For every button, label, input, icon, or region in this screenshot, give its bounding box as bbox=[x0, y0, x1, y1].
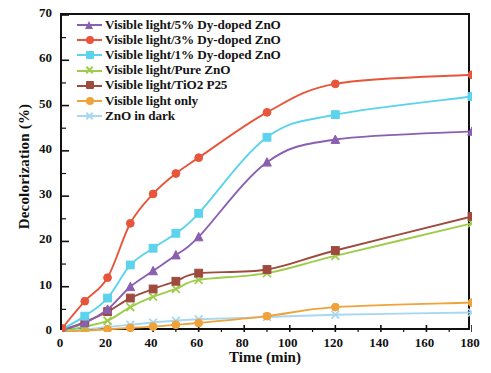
y-tick-label: 10 bbox=[18, 277, 52, 293]
x-tick-label: 80 bbox=[222, 335, 262, 351]
series-line bbox=[62, 93, 472, 332]
x-axis-title: Time (min) bbox=[60, 349, 470, 366]
legend-label: Visible light/TiO2 P25 bbox=[102, 77, 227, 93]
legend-swatch bbox=[77, 79, 102, 92]
x-tick-label: 100 bbox=[268, 335, 308, 351]
legend-swatch bbox=[77, 94, 102, 107]
legend-item[interactable]: Visible light/5% Dy-doped ZnO bbox=[77, 17, 281, 32]
y-tick-label: 40 bbox=[18, 141, 52, 157]
x-tick-label: 0 bbox=[40, 335, 80, 351]
legend-swatch bbox=[77, 33, 102, 46]
legend-marker-circle-icon bbox=[86, 97, 94, 105]
legend-label: Visible light/5% Dy-doped ZnO bbox=[102, 17, 281, 33]
legend-swatch bbox=[77, 48, 102, 61]
legend-marker-square-icon bbox=[86, 81, 94, 89]
y-tick-label: 30 bbox=[18, 186, 52, 202]
legend-swatch bbox=[77, 18, 102, 31]
x-tick-label: 60 bbox=[177, 335, 217, 351]
legend-label: Visible light only bbox=[102, 93, 198, 109]
legend-item[interactable]: ZnO in dark bbox=[77, 108, 281, 123]
legend-label: Visible light/Pure ZnO bbox=[102, 62, 230, 78]
legend-marker-x-icon bbox=[86, 66, 94, 74]
legend-label: Visible light/1% Dy-doped ZnO bbox=[102, 47, 281, 63]
legend-marker-square-icon bbox=[86, 51, 94, 59]
legend-marker-x-icon bbox=[86, 112, 94, 120]
legend-label: Visible light/3% Dy-doped ZnO bbox=[102, 32, 281, 48]
legend-label: ZnO in dark bbox=[102, 108, 175, 124]
x-tick-label: 140 bbox=[359, 335, 399, 351]
legend-swatch bbox=[77, 109, 102, 122]
y-tick-label: 70 bbox=[18, 5, 52, 21]
legend-swatch bbox=[77, 64, 102, 77]
x-tick-label: 120 bbox=[313, 335, 353, 351]
chart-legend: Visible light/5% Dy-doped ZnOVisible lig… bbox=[77, 17, 281, 123]
legend-marker-triangle-icon bbox=[85, 21, 93, 29]
y-tick-label: 60 bbox=[18, 50, 52, 66]
legend-item[interactable]: Visible light/1% Dy-doped ZnO bbox=[77, 47, 281, 62]
legend-item[interactable]: Visible light/TiO2 P25 bbox=[77, 78, 281, 93]
x-tick-label: 20 bbox=[86, 335, 126, 351]
y-tick-label: 50 bbox=[18, 96, 52, 112]
legend-item[interactable]: Visible light only bbox=[77, 93, 281, 108]
x-tick-label: 180 bbox=[450, 335, 490, 351]
series-line bbox=[62, 299, 472, 332]
legend-item[interactable]: Visible light/Pure ZnO bbox=[77, 63, 281, 78]
chart-figure: Decolorization (%) Time (min) 0102030405… bbox=[0, 0, 491, 373]
x-tick-label: 160 bbox=[404, 335, 444, 351]
legend-item[interactable]: Visible light/3% Dy-doped ZnO bbox=[77, 32, 281, 47]
legend-marker-circle-icon bbox=[86, 36, 94, 44]
x-tick-label: 40 bbox=[131, 335, 171, 351]
y-tick-label: 20 bbox=[18, 231, 52, 247]
